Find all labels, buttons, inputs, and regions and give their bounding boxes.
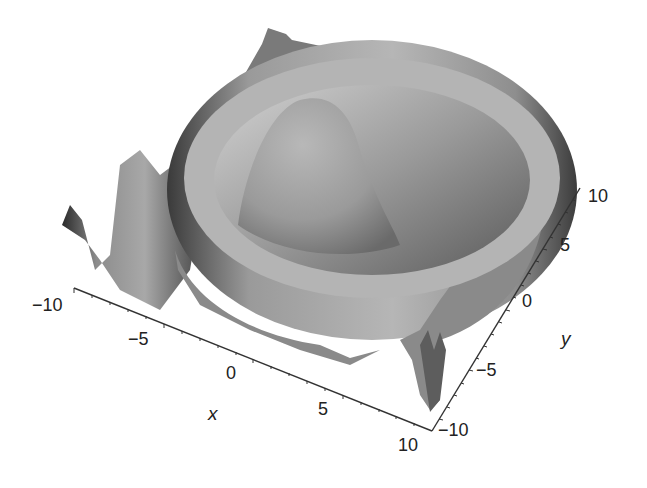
y-tick-label: 5 xyxy=(560,236,570,254)
y-tick-label: −10 xyxy=(438,421,469,439)
y-tick-label: 0 xyxy=(522,292,532,310)
x-axis-title: x xyxy=(208,404,218,423)
x-tick-label: 0 xyxy=(226,364,236,382)
x-tick-label: 5 xyxy=(318,400,328,418)
y-tick-label: −5 xyxy=(476,361,497,379)
x-tick-label: −10 xyxy=(32,296,63,314)
y-axis-title: y xyxy=(561,329,571,348)
x-tick-label: −5 xyxy=(128,330,149,348)
x-tick-label: 10 xyxy=(398,436,418,454)
y-tick-label: 10 xyxy=(588,187,608,205)
surface-plot: −10 −5 0 5 10 x −10 −5 0 5 10 y xyxy=(0,0,647,488)
